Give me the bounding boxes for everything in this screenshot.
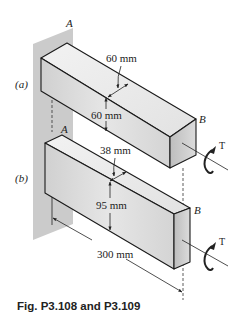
label-a-end-top: A <box>65 17 73 29</box>
torque-arrow-b-icon <box>205 246 213 270</box>
dim-b-width: 38 mm <box>100 144 131 156</box>
torque-label-a: T <box>219 140 225 151</box>
torque-arrow-a-icon <box>205 150 213 173</box>
label-b-end-bottom: B <box>194 204 201 216</box>
figure-caption: Fig. P3.108 and P3.109 <box>17 300 140 312</box>
label-part-b: (b) <box>15 172 28 185</box>
dim-b-length: 300 mm <box>97 248 134 260</box>
dim-b-height: 95 mm <box>96 199 127 211</box>
label-a-end-bottom: B <box>199 113 206 125</box>
label-b-end-top: A <box>60 123 68 135</box>
dim-a-height: 60 mm <box>91 109 122 121</box>
torque-label-b: T <box>219 236 225 247</box>
label-part-a: (a) <box>15 78 28 91</box>
torsion-bars-diagram: A (a) 60 mm 60 mm B T A (b) 38 mm 95 mm … <box>0 0 248 326</box>
dim-a-width: 60 mm <box>106 52 137 64</box>
bar-b-end-face <box>174 208 190 269</box>
